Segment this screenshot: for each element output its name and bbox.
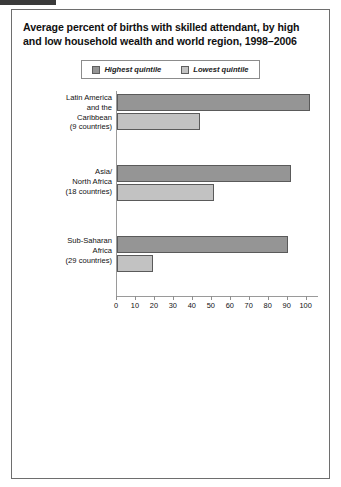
bar-asia-lowest[interactable] xyxy=(117,184,214,201)
legend-swatch-highest-icon xyxy=(92,66,100,74)
x-tick xyxy=(116,296,117,300)
category-label-line: Caribbean xyxy=(66,113,112,123)
x-tick-label: 10 xyxy=(131,301,139,310)
legend-item-lowest-quintile[interactable]: Lowest quintile xyxy=(181,65,248,74)
page-top-strip xyxy=(0,0,56,5)
category-label-line: (9 countries) xyxy=(66,122,112,132)
x-tick-label: 80 xyxy=(264,301,272,310)
category-label-line: Africa xyxy=(66,246,112,256)
bar-sub-saharan-lowest[interactable] xyxy=(117,255,153,272)
chart-plot-area: Latin America and the Caribbean (9 count… xyxy=(23,91,318,296)
x-tick xyxy=(211,296,212,300)
x-tick-label: 100 xyxy=(299,301,311,310)
category-label-asia-north-africa: Asia/ North Africa (18 countries) xyxy=(66,167,112,196)
category-label-latin-america: Latin America and the Caribbean (9 count… xyxy=(66,93,112,131)
figure-content: Average percent of births with skilled a… xyxy=(11,9,330,479)
legend-swatch-lowest-icon xyxy=(181,66,189,74)
x-tick xyxy=(135,296,136,300)
legend-label-highest: Highest quintile xyxy=(104,65,161,74)
x-tick-label: 50 xyxy=(207,301,215,310)
page-title: Average percent of births with skilled a… xyxy=(23,20,318,48)
category-label-line: (18 countries) xyxy=(66,187,112,197)
category-label-line: Latin America xyxy=(66,93,112,103)
legend-container: Highest quintile Lowest quintile xyxy=(23,60,318,79)
category-axis-labels: Latin America and the Caribbean (9 count… xyxy=(23,91,116,296)
x-axis: 0102030405060708090100 xyxy=(116,296,318,322)
x-tick xyxy=(230,296,231,300)
x-tick-label: 60 xyxy=(226,301,234,310)
bars-container xyxy=(116,91,318,296)
legend-item-highest-quintile[interactable]: Highest quintile xyxy=(92,65,161,74)
category-label-line: and the xyxy=(66,103,112,113)
category-label-line: North Africa xyxy=(66,177,112,187)
figure-page: Average percent of births with skilled a… xyxy=(0,0,341,487)
legend-label-lowest: Lowest quintile xyxy=(193,65,248,74)
category-label-line: (29 countries) xyxy=(66,256,112,266)
x-tick-label: 40 xyxy=(188,301,196,310)
category-label-line: Asia/ xyxy=(66,167,112,177)
x-tick xyxy=(192,296,193,300)
x-axis-line xyxy=(116,296,318,297)
x-tick xyxy=(154,296,155,300)
x-tick-label: 90 xyxy=(283,301,291,310)
chart-legend: Highest quintile Lowest quintile xyxy=(81,60,259,79)
x-tick-label: 0 xyxy=(114,301,118,310)
x-tick xyxy=(287,296,288,300)
category-label-sub-saharan-africa: Sub-Saharan Africa (29 countries) xyxy=(66,236,112,265)
x-tick-label: 20 xyxy=(150,301,158,310)
x-tick-label: 30 xyxy=(169,301,177,310)
x-tick xyxy=(306,296,307,300)
category-label-line: Sub-Saharan xyxy=(66,236,112,246)
bar-sub-saharan-highest[interactable] xyxy=(117,236,288,253)
bar-latin-america-lowest[interactable] xyxy=(117,113,200,130)
x-tick xyxy=(268,296,269,300)
x-tick xyxy=(249,296,250,300)
x-tick-label: 70 xyxy=(245,301,253,310)
x-tick xyxy=(173,296,174,300)
bar-latin-america-highest[interactable] xyxy=(117,94,310,111)
bar-asia-highest[interactable] xyxy=(117,165,291,182)
